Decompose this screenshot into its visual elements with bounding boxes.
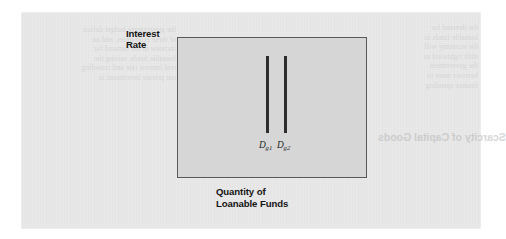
x-axis-label-line1: Quantity of [216,186,346,198]
y-axis-label-line1: Interest [126,28,178,39]
scanned-page: the government budget deficit of these e… [22,13,480,228]
curve-label-subscript: g2 [284,144,291,151]
x-axis-label-line2: Loanable Funds [216,198,346,210]
y-axis-label: Interest Rate [126,28,178,50]
curve-label-base: D [259,140,266,150]
curve-label-dg2: Dg2 [277,140,290,150]
demand-curve-dg2 [284,56,287,133]
plot-area [178,38,366,177]
loanable-funds-figure: Interest Rate Quantity of Loanable Funds… [22,13,480,228]
curve-label-subscript: g1 [266,144,273,151]
curve-label-dg1: Dg1 [259,140,272,150]
plot-box [177,37,367,178]
demand-curve-dg1 [266,56,269,133]
x-axis-label: Quantity of Loanable Funds [216,186,346,209]
curve-label-base: D [277,140,284,150]
y-axis-label-line2: Rate [126,39,178,50]
